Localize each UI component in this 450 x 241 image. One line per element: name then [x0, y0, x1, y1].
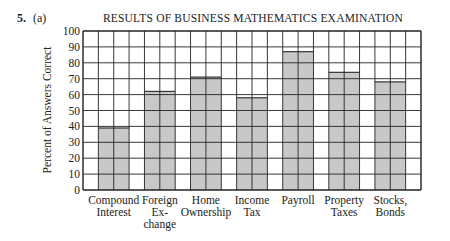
- x-tick-label: Stocks,Bonds: [360, 194, 420, 218]
